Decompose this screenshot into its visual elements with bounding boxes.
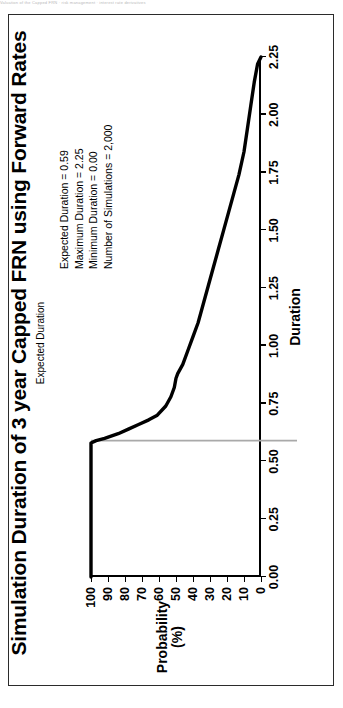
y-tick xyxy=(108,577,109,582)
x-tick-label: 0.75 xyxy=(267,392,281,416)
chart-canvas: Simulation Duration of 3 year Capped FRN… xyxy=(5,13,321,673)
x-tick-label: 0.25 xyxy=(267,507,281,531)
x-tick-label: 2.25 xyxy=(267,45,281,69)
annotation-maximum-duration: Maximum Duration = 2.25 xyxy=(72,125,87,269)
y-tick xyxy=(159,577,160,582)
chart-title: Simulation Duration of 3 year Capped FRN… xyxy=(7,13,31,673)
y-tick-label: 60 xyxy=(152,587,166,623)
y-tick xyxy=(125,577,126,582)
y-axis-title-line2: (%) xyxy=(169,626,185,648)
y-tick xyxy=(193,577,194,582)
x-tick-label: 2.00 xyxy=(267,103,281,127)
y-tick-label: 70 xyxy=(135,587,149,623)
x-tick xyxy=(261,402,266,403)
y-tick-label: 40 xyxy=(186,587,200,623)
x-tick-label: 1.00 xyxy=(267,334,281,358)
x-tick xyxy=(261,229,266,230)
x-tick-label: 1.75 xyxy=(267,160,281,184)
chart-subtitle: Expected Duration xyxy=(35,13,46,673)
x-tick-label: 1.50 xyxy=(267,218,281,242)
y-tick-label: 30 xyxy=(203,587,217,623)
y-tick xyxy=(142,577,143,582)
y-tick-label: 20 xyxy=(220,587,234,623)
y-tick-label: 50 xyxy=(169,587,183,623)
x-tick xyxy=(261,56,266,57)
y-tick-label: 100 xyxy=(84,587,98,623)
data-series-line xyxy=(91,57,261,577)
x-tick xyxy=(261,518,266,519)
x-tick-label: 0.00 xyxy=(267,565,281,589)
y-tick xyxy=(91,577,92,582)
y-tick xyxy=(227,577,228,582)
x-tick-label: 0.50 xyxy=(267,449,281,473)
plot-area: 0.000.250.500.751.001.251.501.752.002.25… xyxy=(91,57,261,577)
scan-header-text: Valuation of the Capped FRN · risk manag… xyxy=(0,0,343,12)
y-tick xyxy=(244,577,245,582)
y-tick-label: 0 xyxy=(254,587,268,623)
x-tick xyxy=(261,345,266,346)
annotation-expected-duration: Expected Duration = 0.59 xyxy=(57,125,72,269)
x-tick xyxy=(261,171,266,172)
figure-page: Valuation of the Capped FRN · risk manag… xyxy=(0,0,343,708)
x-axis-title: Duration xyxy=(287,57,303,577)
y-tick-label: 80 xyxy=(118,587,132,623)
y-tick xyxy=(210,577,211,582)
x-tick xyxy=(261,113,266,114)
y-tick xyxy=(176,577,177,582)
x-tick-label: 1.25 xyxy=(267,276,281,300)
y-tick-label: 10 xyxy=(237,587,251,623)
x-tick xyxy=(261,287,266,288)
series-svg xyxy=(91,57,261,577)
x-tick xyxy=(261,460,266,461)
y-tick-label: 90 xyxy=(101,587,115,623)
y-tick xyxy=(261,577,262,582)
